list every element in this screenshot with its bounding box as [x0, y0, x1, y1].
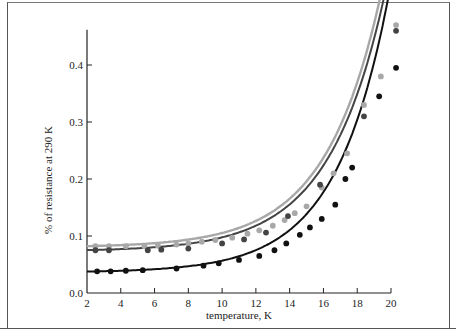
x-tick-label: 12 — [250, 297, 261, 309]
data-point — [272, 247, 278, 253]
data-point — [349, 165, 355, 171]
data-point — [93, 247, 99, 253]
data-point — [304, 203, 310, 209]
data-point — [140, 267, 146, 273]
data-point — [229, 235, 235, 241]
data-point — [307, 225, 313, 231]
data-point — [393, 22, 399, 28]
chart-plot: 0.00.10.20.30.42468101214161820 temperat… — [0, 0, 456, 336]
x-tick-label: 14 — [284, 297, 296, 309]
data-point — [344, 150, 350, 156]
data-point — [378, 74, 384, 80]
data-point — [361, 113, 367, 119]
fit-curve — [87, 0, 398, 246]
data-point — [123, 268, 129, 274]
x-tick-label: 2 — [84, 297, 90, 309]
x-tick-label: 20 — [386, 297, 398, 309]
y-tick-label: 0.0 — [69, 287, 83, 299]
data-point — [393, 28, 399, 34]
axes: 0.00.10.20.30.42468101214161820 — [69, 30, 397, 309]
x-tick-label: 18 — [352, 297, 364, 309]
x-tick-label: 16 — [318, 297, 330, 309]
data-point — [212, 237, 218, 243]
data-point — [219, 241, 225, 247]
data-point — [292, 210, 298, 216]
data-point — [94, 268, 100, 274]
data-point — [236, 257, 242, 263]
data-point — [216, 260, 222, 266]
data-point — [256, 253, 262, 259]
data-point — [361, 102, 367, 108]
data-point — [145, 247, 151, 253]
x-tick-label: 10 — [217, 297, 229, 309]
data-point — [241, 237, 247, 243]
y-tick-label: 0.1 — [69, 230, 83, 242]
data-point — [123, 243, 129, 249]
data-point — [174, 242, 180, 248]
data-point — [270, 223, 276, 229]
x-tick-label: 8 — [186, 297, 192, 309]
data-point — [108, 268, 114, 274]
data-point — [174, 266, 180, 272]
y-tick-label: 0.2 — [69, 173, 83, 185]
data-point — [158, 247, 164, 253]
data-point — [332, 202, 338, 208]
fit-curves — [87, 0, 401, 272]
data-point — [331, 170, 337, 176]
x-axis-label: temperature, K — [206, 309, 272, 321]
data-point — [185, 241, 191, 247]
x-tick-label: 4 — [118, 297, 124, 309]
data-point — [263, 230, 269, 236]
data-point — [245, 231, 251, 237]
data-point — [319, 216, 325, 222]
data-point — [185, 246, 191, 252]
data-point — [393, 65, 399, 71]
data-point — [376, 93, 382, 99]
y-axis-label: % of resistance at 290 K — [42, 126, 54, 234]
fit-curve — [87, 0, 398, 250]
data-point — [201, 263, 207, 269]
y-tick-label: 0.4 — [69, 59, 83, 71]
y-tick-label: 0.3 — [69, 116, 83, 128]
data-points — [93, 22, 399, 274]
data-point — [283, 241, 289, 247]
data-point — [317, 182, 323, 188]
data-point — [256, 227, 262, 233]
data-point — [199, 239, 205, 245]
data-point — [106, 247, 112, 253]
data-point — [297, 232, 303, 238]
x-tick-label: 6 — [152, 297, 158, 309]
data-point — [343, 176, 349, 182]
data-point — [285, 213, 291, 219]
